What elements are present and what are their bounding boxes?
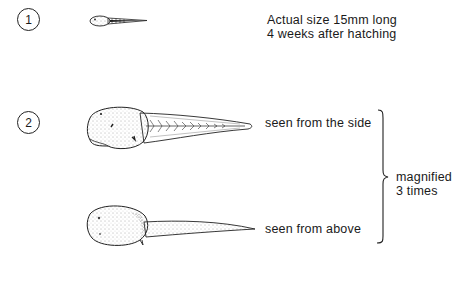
item-number: 2 [25, 116, 32, 130]
tadpole-illustration [0, 0, 476, 285]
item-number: 1 [25, 13, 32, 27]
magnification-note-line: magnified [396, 170, 452, 184]
caption-line: Actual size 15mm long [267, 13, 397, 27]
view-label-above: seen from above [265, 222, 361, 236]
item-number-badge: 1 [17, 8, 40, 31]
curly-bracket [377, 110, 388, 243]
small-tadpole-drawing [90, 16, 147, 26]
view-label-side: seen from the side [265, 116, 371, 130]
caption-line: 4 weeks after hatching [267, 27, 396, 41]
magnification-note-line: 3 times [396, 184, 438, 198]
side-view-tadpole-drawing [87, 107, 251, 148]
item-number-badge: 2 [17, 111, 40, 134]
top-view-tadpole-drawing [87, 206, 255, 245]
